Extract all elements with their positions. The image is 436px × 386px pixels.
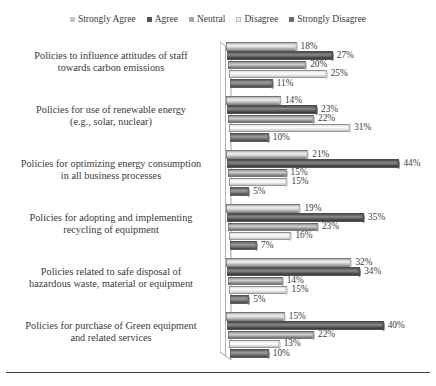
category-label-line: towards carbon emissions bbox=[8, 62, 214, 74]
category-label-line: and related services bbox=[8, 332, 214, 344]
category-label-line: hazardous waste, material or equipment bbox=[8, 278, 214, 290]
bar-value-label: 7% bbox=[261, 240, 273, 250]
legend-swatch-icon bbox=[70, 17, 75, 22]
legend-item-4[interactable]: Strongly Disagree bbox=[289, 14, 366, 24]
bar-row: 34% bbox=[226, 267, 436, 276]
bar-value-label: 22% bbox=[318, 113, 335, 123]
chart-plot-area: Policies to influence attitudes of staff… bbox=[0, 36, 436, 366]
category-label: Policies for adopting and implementingre… bbox=[8, 212, 214, 237]
bar-neutral[interactable] bbox=[228, 169, 287, 178]
bar-end-cap bbox=[247, 296, 250, 305]
bar-value-label: 31% bbox=[354, 122, 371, 132]
legend-item-label: Agree bbox=[155, 14, 178, 24]
bottom-divider bbox=[6, 372, 430, 373]
bar-strongly-agree[interactable] bbox=[226, 42, 297, 51]
category-label-line: (e.g., solar, nuclear) bbox=[8, 116, 214, 128]
legend-item-1[interactable]: Agree bbox=[147, 14, 178, 24]
bar-agree[interactable] bbox=[227, 105, 317, 114]
bar-strongly-disagree[interactable] bbox=[230, 79, 273, 88]
bar-cluster: 19%35%23%16%7% bbox=[226, 204, 436, 259]
bar-value-label: 23% bbox=[322, 221, 339, 231]
bar-row: 32% bbox=[226, 258, 436, 267]
bar-cluster: 15%40%22%13%10% bbox=[226, 312, 436, 367]
bar-value-label: 14% bbox=[285, 95, 302, 105]
bar-value-label: 5% bbox=[253, 294, 265, 304]
legend-item-0[interactable]: Strongly Agree bbox=[70, 14, 136, 24]
bar-value-label: 44% bbox=[403, 158, 420, 168]
bar-value-label: 21% bbox=[312, 149, 329, 159]
bar-agree[interactable] bbox=[227, 213, 364, 222]
bar-row: 16% bbox=[226, 232, 436, 241]
bar-row: 7% bbox=[226, 241, 436, 250]
bar-strongly-agree[interactable] bbox=[226, 258, 351, 267]
bar-value-label: 15% bbox=[289, 311, 306, 321]
category-label-line: recycling of equipment bbox=[8, 224, 214, 236]
category-label-line: Policies for adopting and implementing bbox=[8, 212, 214, 224]
bar-value-label: 15% bbox=[292, 176, 309, 186]
bar-value-label: 22% bbox=[318, 329, 335, 339]
chart-category-group: Policies for use of renewable energy(e.g… bbox=[0, 96, 436, 151]
bar-row: 22% bbox=[226, 331, 436, 340]
bar-row: 18% bbox=[226, 42, 436, 51]
bar-strongly-agree[interactable] bbox=[226, 150, 308, 159]
bar-row: 25% bbox=[226, 70, 436, 79]
bar-value-label: 10% bbox=[273, 132, 290, 142]
bar-agree[interactable] bbox=[227, 321, 384, 330]
bar-cluster: 18%27%20%25%11% bbox=[226, 42, 436, 97]
bar-row: 10% bbox=[226, 133, 436, 142]
bar-value-label: 34% bbox=[364, 266, 381, 276]
bar-end-cap bbox=[255, 242, 258, 251]
category-label-line: Policies to influence attitudes of staff bbox=[8, 50, 214, 62]
category-label-line: Policies for purchase of Green equipment bbox=[8, 320, 214, 332]
bar-strongly-disagree[interactable] bbox=[230, 241, 257, 250]
bar-neutral[interactable] bbox=[228, 331, 314, 340]
bar-value-label: 5% bbox=[253, 186, 265, 196]
bar-cluster: 32%34%14%15%5% bbox=[226, 258, 436, 313]
bar-value-label: 40% bbox=[388, 320, 405, 330]
legend-swatch-icon bbox=[289, 17, 294, 22]
bar-row: 5% bbox=[226, 187, 436, 196]
bar-strongly-agree[interactable] bbox=[226, 96, 281, 105]
legend-item-3[interactable]: Disagree bbox=[236, 14, 278, 24]
bar-value-label: 20% bbox=[310, 59, 327, 69]
chart-category-group: Policies for optimizing energy consumpti… bbox=[0, 150, 436, 205]
bar-strongly-disagree[interactable] bbox=[230, 295, 250, 304]
bar-row: 10% bbox=[226, 349, 436, 358]
bar-agree[interactable] bbox=[227, 159, 399, 168]
category-label-line: Policies related to safe disposal of bbox=[8, 266, 214, 278]
bar-neutral[interactable] bbox=[228, 61, 306, 70]
chart-category-group: Policies related to safe disposal ofhaza… bbox=[0, 258, 436, 313]
chart-category-group: Policies for purchase of Green equipment… bbox=[0, 312, 436, 367]
bar-end-cap bbox=[271, 80, 274, 89]
category-label: Policies related to safe disposal ofhaza… bbox=[8, 266, 214, 291]
bar-value-label: 16% bbox=[295, 230, 312, 240]
legend-item-label: Strongly Agree bbox=[78, 14, 136, 24]
legend-item-label: Disagree bbox=[244, 14, 278, 24]
bar-row: 15% bbox=[226, 169, 436, 178]
bar-strongly-agree[interactable] bbox=[226, 312, 285, 321]
bar-strongly-disagree[interactable] bbox=[230, 187, 250, 196]
bar-neutral[interactable] bbox=[228, 115, 314, 124]
bar-strongly-disagree[interactable] bbox=[230, 133, 269, 142]
bar-strongly-disagree[interactable] bbox=[230, 349, 269, 358]
bar-row: 5% bbox=[226, 295, 436, 304]
bar-value-label: 10% bbox=[273, 348, 290, 358]
legend-item-2[interactable]: Neutral bbox=[189, 14, 226, 24]
bar-strongly-agree[interactable] bbox=[226, 204, 300, 213]
bar-value-label: 18% bbox=[301, 41, 318, 51]
bar-row: 23% bbox=[226, 223, 436, 232]
category-label-line: Policies for use of renewable energy bbox=[8, 104, 214, 116]
bar-row: 13% bbox=[226, 340, 436, 349]
bar-end-cap bbox=[267, 134, 270, 143]
category-label: Policies to influence attitudes of staff… bbox=[8, 50, 214, 75]
legend-swatch-icon bbox=[147, 17, 152, 22]
bar-row: 27% bbox=[226, 51, 436, 60]
bar-row: 44% bbox=[226, 159, 436, 168]
category-label: Policies for use of renewable energy(e.g… bbox=[8, 104, 214, 129]
bar-row: 19% bbox=[226, 204, 436, 213]
bar-value-label: 11% bbox=[277, 78, 294, 88]
bar-end-cap bbox=[267, 350, 270, 359]
bar-value-label: 15% bbox=[292, 284, 309, 294]
bar-neutral[interactable] bbox=[228, 277, 283, 286]
legend-item-label: Strongly Disagree bbox=[297, 14, 366, 24]
